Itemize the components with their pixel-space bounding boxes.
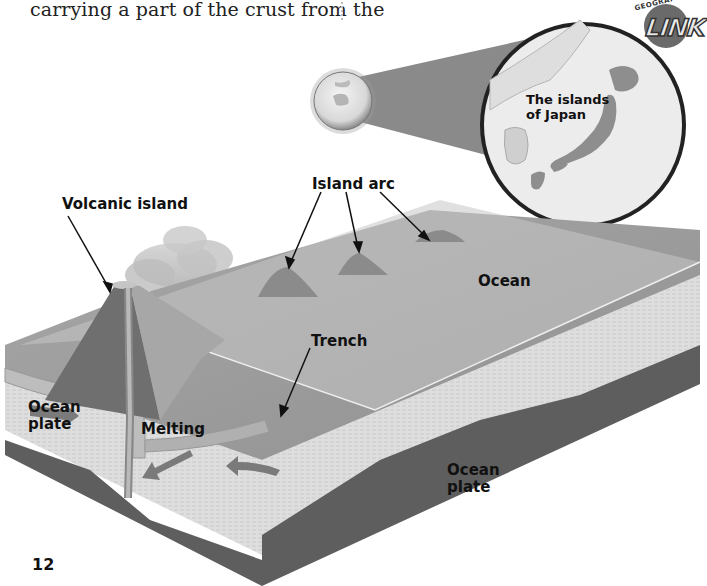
globe-icon [310,68,376,134]
label-islands-of-japan: The islands of Japan [526,92,609,122]
inset-label-line1: The islands [526,92,609,107]
label-ocean-plate-right-line2: plate [447,479,500,496]
label-ocean-plate-right: Ocean plate [447,462,500,496]
inset-map-japan [482,20,684,226]
label-ocean-plate-left-line1: Ocean [28,399,81,416]
label-ocean-plate-right-line1: Ocean [447,462,500,479]
label-ocean-plate-left-line2: plate [28,416,81,433]
label-trench: Trench [311,333,367,350]
label-ocean: Ocean [478,273,531,290]
label-ocean-plate-left: Ocean plate [28,399,81,433]
label-melting: Melting [141,421,205,438]
label-volcanic-island: Volcanic island [62,196,188,213]
page-number: 12 [32,555,54,574]
inset-label-line2: of Japan [526,107,609,122]
badge-main-text: LINK [644,14,707,42]
label-island-arc: Island arc [312,176,395,193]
geography-link-badge: GEOGRAPHY LINK [628,0,704,50]
